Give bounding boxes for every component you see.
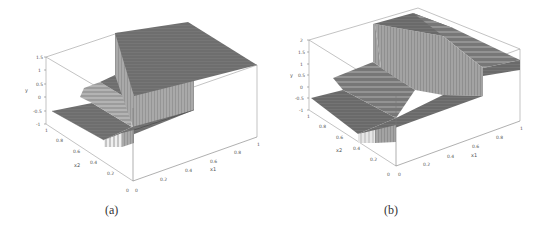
z-tick-label: 0.5 [36,82,43,87]
x1-axis-label: x1 [210,166,216,172]
x1-axis-a: 0 0.2 0.4 0.6 0.8 1 x1 [135,142,260,193]
svg-text:0.4: 0.4 [185,168,192,173]
x1-axis-label: x1 [471,152,477,158]
surface-plot-b: 2 1.5 1 0.5 0 -0.5 -1 y 1 0.8 0.6 0.4 0.… [263,0,547,243]
svg-text:0.2: 0.2 [370,157,377,162]
panel-a: 1.5 1 0.5 0 -0.5 -1 y 1 0.8 0.6 0.4 0.2 … [0,0,273,243]
caption-b: (b) [384,203,398,218]
svg-text:0.4: 0.4 [353,146,360,151]
svg-text:1: 1 [307,114,310,119]
surface-b [311,13,520,143]
svg-text:0.2: 0.2 [160,177,167,182]
svg-text:0.4: 0.4 [90,160,97,165]
svg-text:0.2: 0.2 [107,171,114,176]
x2-axis-label: x2 [74,162,80,168]
z-tick-label: 0.5 [298,73,305,78]
surface-plot-a: 1.5 1 0.5 0 -0.5 -1 y 1 0.8 0.6 0.4 0.2 … [0,0,273,243]
svg-text:0: 0 [135,188,138,193]
svg-text:0.6: 0.6 [73,149,80,154]
z-tick-label: 0 [38,95,41,100]
z-tick-label: 1.5 [36,55,43,60]
z-tick-label: -0.5 [33,109,42,114]
z-tick-label: 1 [38,68,41,73]
panel-b: 2 1.5 1 0.5 0 -0.5 -1 y 1 0.8 0.6 0.4 0.… [263,0,547,243]
svg-text:0.2: 0.2 [423,162,430,167]
svg-text:0: 0 [387,172,390,177]
svg-text:0.6: 0.6 [472,144,479,149]
svg-text:1: 1 [45,128,48,133]
z-tick-label: -1 [36,122,41,127]
svg-text:0.8: 0.8 [496,135,503,140]
svg-text:0.6: 0.6 [210,159,217,164]
z-tick-label: 2 [300,38,303,43]
caption-a: (a) [105,203,118,218]
x2-axis-label: x2 [336,147,342,153]
svg-text:0: 0 [126,188,129,193]
svg-text:0.8: 0.8 [56,138,63,143]
z-tick-label: -0.5 [295,96,304,101]
svg-text:0.8: 0.8 [319,124,326,129]
svg-text:1: 1 [520,126,523,131]
svg-text:0.4: 0.4 [447,154,454,159]
z-tick-label: 1.5 [298,50,305,55]
z-tick-label: 1 [300,62,303,67]
z-axis-label: y [25,87,28,94]
svg-text:1: 1 [257,142,260,147]
z-axis-label: y [290,72,293,79]
svg-text:0: 0 [398,172,401,177]
svg-text:0.6: 0.6 [336,135,343,140]
svg-text:0.8: 0.8 [234,150,241,155]
x1-axis-b: 0 0.2 0.4 0.6 0.8 1 x1 [398,126,523,177]
surface-a [52,22,257,147]
z-tick-label: -1 [299,108,304,113]
z-tick-label: 0 [300,85,303,90]
